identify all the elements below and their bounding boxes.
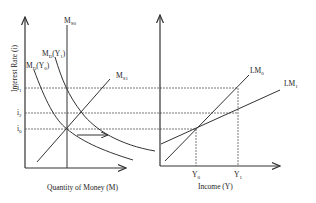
ms1-label: MS1 (116, 71, 128, 81)
ms1-line (37, 79, 110, 162)
lm1-label: LM1 (284, 79, 298, 89)
right-chart: LM0 LM1 Y0 Y1 Income (Y) (160, 15, 298, 191)
diagram-canvas: Interest Rate (i) Quantity of Money (M) … (0, 0, 316, 203)
money-market-lm-diagram: Interest Rate (i) Quantity of Money (M) … (0, 0, 316, 203)
i2-label: i2 (17, 108, 22, 118)
right-x-axis-label: Income (Y) (198, 182, 233, 191)
md-y1-label: MD(Y1) (42, 49, 66, 59)
y1-label: Y1 (234, 170, 242, 180)
i1-label: i1 (17, 83, 22, 93)
y0-label: Y0 (192, 170, 200, 180)
md-y1-curve (55, 57, 155, 151)
lm0-label: LM0 (250, 66, 264, 76)
left-x-axis-label: Quantity of Money (M) (47, 183, 119, 192)
i0-label: i0 (17, 124, 22, 134)
md-y0-label: MD(Y0) (26, 61, 50, 71)
ms0-label: MS0 (64, 16, 76, 26)
lm1-line (161, 90, 280, 144)
